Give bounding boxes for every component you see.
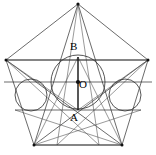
diagonal-p1-p4	[34, 4, 78, 145]
ray-apex-left	[57, 4, 78, 145]
ray-right-to-bottomleft	[57, 60, 148, 145]
geometry-figure: B O A	[0, 0, 156, 155]
vertex-right-dot	[147, 59, 150, 62]
ray-bottomright-to-left	[15, 110, 122, 145]
figure-canvas	[0, 0, 156, 155]
ray-apex-right	[78, 4, 99, 145]
ray-bottomleft-to-right	[34, 110, 141, 145]
diagonal-p2-p4	[34, 60, 148, 145]
vertex-bottom-right-dot	[121, 144, 124, 147]
vertex-bottom-left-dot	[33, 144, 36, 147]
diagonal-p1-p3	[78, 4, 122, 145]
vertex-left-dot	[5, 59, 8, 62]
right-small-circle	[109, 79, 141, 111]
left-small-circle	[15, 79, 47, 111]
label-O: O	[79, 79, 87, 90]
vertex-top-dot	[76, 2, 79, 5]
label-B: B	[70, 41, 77, 52]
diagonal-p3-p5	[6, 60, 122, 145]
label-A: A	[70, 112, 78, 123]
